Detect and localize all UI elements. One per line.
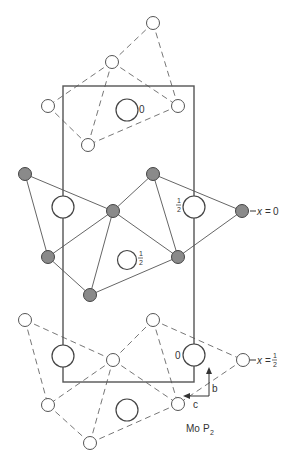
- level-xhalf-den: 2: [273, 361, 277, 368]
- label-top-center: 0: [139, 104, 145, 115]
- top-layer-bonds: [48, 23, 178, 145]
- p-atoms-middle: [19, 168, 249, 302]
- level-xhalf-prefix: x: [256, 355, 263, 366]
- mo-atom-middle-right: [183, 196, 205, 218]
- middle-layer-bonds: [25, 174, 242, 295]
- mo-atom-bottom-right: [183, 344, 205, 366]
- level-x0-eq: =: [265, 206, 271, 217]
- label-mid-center-den: 2: [139, 259, 143, 266]
- label-mid-center-num: 1: [139, 250, 143, 257]
- mo-atom-middle-center: [118, 251, 137, 270]
- mo-atom-bottom-center: [116, 399, 138, 421]
- mo-atom-top: [116, 99, 138, 121]
- mo-atom-middle-left: [52, 196, 74, 218]
- label-mid-right-num: 1: [177, 197, 181, 204]
- mop2-structure-diagram: 0 1 2 1 2 0 x = 0 x = 1 2 b c Mo P 2: [0, 0, 295, 462]
- svg-text:Mo: Mo: [186, 423, 200, 434]
- axis-c-label: c: [193, 399, 198, 410]
- level-xhalf-eq: =: [265, 355, 271, 366]
- compound-label: Mo P 2: [186, 423, 214, 436]
- svg-text:2: 2: [210, 429, 214, 436]
- svg-text:P: P: [203, 423, 210, 434]
- mo-atom-bottom-left: [52, 345, 74, 367]
- level-x0-prefix: x: [256, 206, 263, 217]
- label-bottom-right: 0: [175, 350, 181, 361]
- level-x0-value: 0: [273, 206, 279, 217]
- level-xhalf-num: 1: [273, 352, 277, 359]
- unit-cell-outline: [63, 86, 194, 382]
- label-mid-right-den: 2: [177, 206, 181, 213]
- axis-b-label: b: [212, 383, 218, 394]
